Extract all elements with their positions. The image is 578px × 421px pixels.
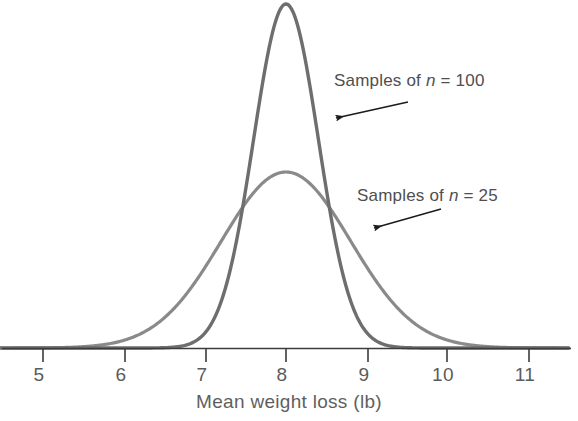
x-axis-tick-marks xyxy=(43,348,529,362)
arrow-n100 xyxy=(336,102,408,118)
annotation-n100: Samples of n = 100 xyxy=(334,71,485,91)
x-axis-tick-label: 5 xyxy=(33,364,44,386)
annotation-n25-suffix: = 25 xyxy=(459,186,498,205)
x-axis-tick-label: 9 xyxy=(358,364,369,386)
normal-curves-chart: 567891011 Samples of n = 100 Samples of … xyxy=(0,0,578,421)
annotation-n25-variable: n xyxy=(449,186,459,205)
annotation-n100-variable: n xyxy=(426,71,436,90)
x-axis-tick-label: 10 xyxy=(432,364,454,386)
annotation-n100-suffix: = 100 xyxy=(436,71,485,90)
x-axis-title: Mean weight loss (lb) xyxy=(0,391,578,413)
annotation-n25-prefix: Samples of xyxy=(357,186,449,205)
curve-n100 xyxy=(0,4,569,348)
x-axis-tick-label: 8 xyxy=(276,364,287,386)
annotation-n100-prefix: Samples of xyxy=(334,71,426,90)
chart-canvas xyxy=(0,0,578,421)
x-axis-tick-label: 11 xyxy=(515,364,536,386)
x-axis-tick-label: 7 xyxy=(196,364,207,386)
arrow-n25 xyxy=(374,209,441,228)
annotation-n25: Samples of n = 25 xyxy=(357,186,498,206)
x-axis-tick-label: 6 xyxy=(115,364,126,386)
